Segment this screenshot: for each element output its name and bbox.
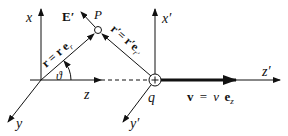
charge-q-marker — [149, 74, 161, 86]
y-axis-label: y — [14, 116, 23, 131]
field-vector-e-prime — [81, 12, 95, 27]
y-prime-axis-label: y′ — [128, 116, 140, 131]
angle-arc — [64, 61, 71, 80]
angle-label: ϑ — [56, 69, 63, 83]
z-prime-axis-label: z′ — [261, 64, 271, 79]
velocity-label: v = v ez — [187, 89, 234, 106]
x-prime-axis-label: x′ — [161, 11, 172, 26]
moving-charge-diagram: x y z x′ y′ z′ E′ P ϑ q r = r er r′= r′e… — [0, 0, 288, 136]
field-label: E′ — [62, 9, 74, 24]
position-vector-r-prime-label: r′= r′er′ — [107, 22, 146, 59]
unprimed-axes — [8, 9, 149, 122]
point-p-label: P — [93, 7, 102, 22]
x-axis-label: x — [25, 10, 33, 25]
point-p-marker — [95, 27, 102, 34]
primed-axes — [123, 9, 280, 122]
y-axis — [8, 80, 41, 122]
charge-label: q — [148, 90, 155, 105]
z-axis-label: z — [83, 87, 90, 102]
